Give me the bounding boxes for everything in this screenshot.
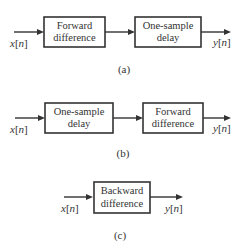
block-label-line1: Forward [155, 106, 191, 117]
arrowhead-icon [37, 29, 44, 35]
caption-b: (b) [117, 147, 130, 160]
block-label-line2: difference [152, 118, 195, 129]
arrowhead-icon [136, 115, 143, 121]
arrowhead-icon [176, 194, 183, 200]
arrowhead-icon [86, 194, 93, 200]
arrowhead-icon [224, 29, 231, 35]
block-label-line1: One-sample [54, 106, 105, 117]
block-label-line2: difference [53, 32, 96, 43]
block-label-line1: Backward [101, 185, 144, 196]
arrowhead-icon [38, 115, 45, 121]
block-label-line2: delay [157, 32, 180, 43]
input-signal-label: x[n] [9, 123, 28, 135]
block-label-line1: Forward [57, 20, 93, 31]
arrowhead-icon [128, 29, 135, 35]
diagram-svg: x[n] Forward difference One-sample delay… [0, 0, 241, 247]
input-signal-label: x[n] [60, 202, 79, 214]
block-label-line2: difference [101, 198, 144, 209]
arrowhead-icon [224, 115, 231, 121]
caption-c: (c) [114, 229, 127, 242]
output-signal-label: y[n] [212, 36, 231, 48]
output-signal-label: y[n] [164, 202, 183, 214]
diagram-c: x[n] Backward difference y[n] (c) [60, 182, 183, 242]
output-signal-label: y[n] [212, 122, 231, 134]
block-label-line2: delay [68, 118, 91, 129]
block-label-line1: One-sample [143, 20, 194, 31]
block-diagram-figure: x[n] Forward difference One-sample delay… [0, 0, 241, 247]
input-signal-label: x[n] [9, 37, 28, 49]
caption-a: (a) [118, 63, 131, 76]
diagram-b: x[n] One-sample delay Forward difference… [9, 103, 231, 160]
diagram-a: x[n] Forward difference One-sample delay… [9, 17, 231, 76]
